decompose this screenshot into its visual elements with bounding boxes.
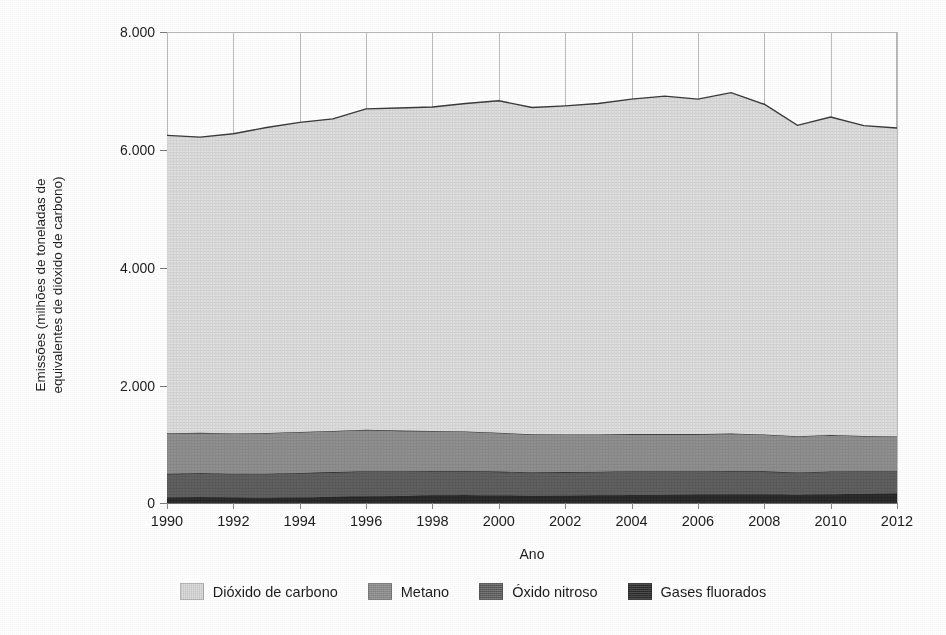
x-tick-label-1998: 1998 <box>402 513 462 529</box>
x-tick-mark-2000 <box>499 503 500 509</box>
stacked-area-series <box>167 32 897 503</box>
x-tick-label-2006: 2006 <box>668 513 728 529</box>
y-tick-mark <box>160 268 167 269</box>
x-tick-mark-1992 <box>233 503 234 509</box>
legend-item-metano[interactable]: Metano <box>368 583 449 600</box>
x-tick-label-1994: 1994 <box>270 513 330 529</box>
legend-label: Óxido nitroso <box>512 584 597 600</box>
legend-swatch-icon <box>180 583 204 600</box>
x-tick-mark-1994 <box>300 503 301 509</box>
x-tick-label-2002: 2002 <box>535 513 595 529</box>
chart-figure: Emissões (milhões de toneladas de equiva… <box>0 0 946 635</box>
legend-item-oxido-nitroso[interactable]: Óxido nitroso <box>479 583 597 600</box>
y-tick-mark <box>160 32 167 33</box>
x-axis-title: Ano <box>0 546 946 562</box>
x-tick-label-2008: 2008 <box>734 513 794 529</box>
legend: Dióxido de carbono Metano Óxido nitroso … <box>0 583 946 600</box>
area-óxido-nitroso <box>167 471 897 498</box>
area-dióxido-de-carbono <box>167 93 897 437</box>
x-tick-label-2010: 2010 <box>801 513 861 529</box>
x-axis-line <box>167 503 897 504</box>
legend-label: Metano <box>401 584 449 600</box>
legend-label: Gases fluorados <box>661 584 767 600</box>
y-tick-mark <box>160 386 167 387</box>
y-tick-label: 8.000 <box>89 24 155 40</box>
x-tick-label-1990: 1990 <box>137 513 197 529</box>
legend-label: Dióxido de carbono <box>213 584 338 600</box>
x-tick-mark-1996 <box>366 503 367 509</box>
legend-item-gases-fluorados[interactable]: Gases fluorados <box>628 583 767 600</box>
x-tick-mark-1990 <box>167 503 168 509</box>
x-tick-label-2000: 2000 <box>469 513 529 529</box>
y-tick-mark <box>160 150 167 151</box>
x-tick-mark-2006 <box>698 503 699 509</box>
x-tick-mark-2008 <box>764 503 765 509</box>
legend-swatch-icon <box>479 583 503 600</box>
x-axis-title-text: Ano <box>520 546 545 562</box>
clipped-figure-title <box>300 0 860 4</box>
x-tick-label-2012: 2012 <box>867 513 927 529</box>
y-tick-label: 2.000 <box>89 378 155 394</box>
plot-area <box>167 32 897 503</box>
x-tick-label-1996: 1996 <box>336 513 396 529</box>
x-tick-mark-2012 <box>897 503 898 509</box>
y-axis-title: Emissões (milhões de toneladas de equiva… <box>32 50 66 520</box>
y-tick-mark <box>160 503 167 504</box>
legend-swatch-icon <box>368 583 392 600</box>
y-tick-label: 4.000 <box>89 260 155 276</box>
gridline-2012 <box>897 32 898 503</box>
legend-swatch-icon <box>628 583 652 600</box>
x-tick-mark-2010 <box>831 503 832 509</box>
area-metano <box>167 430 897 474</box>
x-tick-label-2004: 2004 <box>602 513 662 529</box>
y-tick-label: 0 <box>89 495 155 511</box>
x-tick-label-1992: 1992 <box>203 513 263 529</box>
x-tick-mark-1998 <box>432 503 433 509</box>
y-tick-label: 6.000 <box>89 142 155 158</box>
legend-item-dioxido-de-carbono[interactable]: Dióxido de carbono <box>180 583 338 600</box>
x-tick-mark-2002 <box>565 503 566 509</box>
x-tick-mark-2004 <box>632 503 633 509</box>
